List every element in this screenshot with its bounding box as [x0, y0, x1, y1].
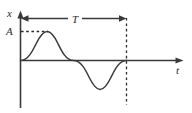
sine-wave-diagram: x A T t: [0, 0, 192, 113]
period-label: T: [72, 13, 79, 25]
amplitude-label: A: [5, 25, 13, 37]
figure-container: x A T t: [0, 0, 192, 113]
y-axis-label: x: [6, 7, 12, 19]
